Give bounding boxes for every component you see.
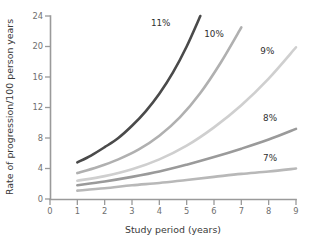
x-tick-label: 5 [184,206,189,216]
x-tick-label: 8 [266,206,271,216]
progression-rate-line-chart: 11%10%9%8%7% 04812162024 0123456789 Stud… [0,0,316,249]
x-tick-label: 1 [75,206,80,216]
x-tick-label: 3 [129,206,134,216]
y-tick-label: 0 [38,194,43,204]
series-label-8pct: 8% [263,113,277,123]
y-tick-label: 16 [32,72,43,82]
y-axis-title: Rate of progression/100 person years [4,19,15,195]
series-label-7pct: 7% [263,153,277,163]
x-tick-label: 7 [239,206,244,216]
series-group [77,16,296,191]
x-axis: 0123456789 [47,199,298,216]
x-tick-label: 2 [102,206,107,216]
series-label-9pct: 9% [260,46,274,56]
series-line-10pct [77,27,241,173]
series-line-11pct [77,16,200,162]
x-tick-label: 4 [157,206,162,216]
y-axis: 04812162024 [32,11,50,204]
y-tick-label: 20 [32,41,43,51]
chart-figure: 11%10%9%8%7% 04812162024 0123456789 Stud… [0,0,316,249]
x-tick-group: 0123456789 [47,199,298,216]
x-tick-label: 0 [47,206,52,216]
y-tick-label: 4 [38,163,43,173]
y-tick-label: 8 [38,133,43,143]
plot-area: 11%10%9%8%7% [77,16,296,191]
y-tick-label: 24 [32,11,43,21]
series-label-10pct: 10% [204,29,224,39]
series-label-11pct: 11% [151,18,171,28]
x-axis-title: Study period (years) [125,224,221,235]
x-tick-label: 6 [211,206,216,216]
y-tick-group: 04812162024 [32,11,50,204]
x-tick-label: 9 [293,206,298,216]
y-tick-label: 12 [32,102,43,112]
